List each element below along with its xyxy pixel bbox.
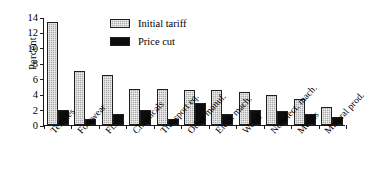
- y-tick-label: 14: [28, 11, 39, 24]
- y-tick-label: 4: [33, 88, 38, 101]
- bar-initial-tariff: [47, 22, 58, 125]
- y-tick-label: 6: [33, 73, 38, 86]
- x-axis-labels: TextilesFootwearFishChemicalsTransport e…: [43, 128, 345, 192]
- y-tick-label: 0: [33, 119, 38, 132]
- y-tick-label: 2: [33, 104, 38, 117]
- x-tick-mark: [346, 125, 347, 129]
- y-tick-label: 12: [28, 26, 39, 39]
- y-tick-label: 8: [33, 57, 38, 70]
- y-tick-label: 10: [28, 42, 39, 55]
